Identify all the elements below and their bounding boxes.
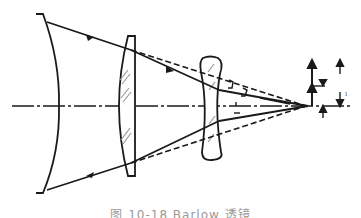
barlow-lens [200, 57, 221, 161]
image-arrows [308, 60, 343, 118]
barlow-lens-diagram [0, 0, 361, 218]
image-height-label: ı [345, 90, 347, 98]
objective-lens [119, 36, 135, 176]
primary-mirror [36, 14, 59, 193]
figure-caption: 图 10-18 Barlow 透镜 [0, 208, 361, 218]
